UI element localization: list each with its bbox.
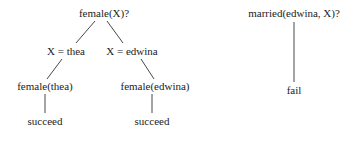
edge-root-to-edwina (107, 21, 123, 43)
binding-thea-node: X = thea (47, 45, 85, 57)
result-fail: fail (287, 84, 302, 96)
edge-thea-to-goal (47, 59, 62, 79)
goal-female-edwina-node: female(edwina) (120, 80, 189, 93)
edge-edwina-to-goal (141, 59, 154, 79)
result-succeed-thea: succeed (28, 115, 63, 127)
result-succeed-edwina: succeed (135, 115, 170, 127)
binding-edwina-node: X = edwina (106, 45, 158, 57)
tree1-root-node: female(X)? (79, 7, 129, 20)
diagram-canvas: female(X)? X = thea X = edwina female(th… (0, 0, 355, 144)
edge-root-to-thea (76, 21, 95, 43)
tree2-root-node: married(edwina, X)? (248, 7, 340, 20)
goal-female-thea-node: female(thea) (17, 80, 73, 93)
